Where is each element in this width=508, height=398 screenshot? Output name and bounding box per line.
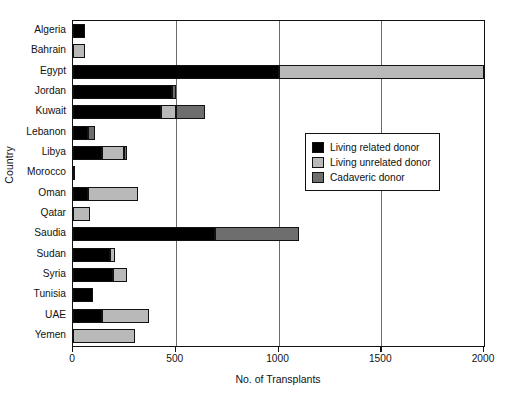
bar-segment <box>73 187 88 201</box>
x-axis-tick-label: 500 <box>166 353 183 364</box>
legend-item: Living unrelated donor <box>312 155 431 169</box>
category-label: Kuwait <box>35 106 66 116</box>
category-label: Yemen <box>35 330 66 340</box>
bar-segment <box>73 166 75 180</box>
x-axis-tick <box>483 346 484 352</box>
category-label: Sudan <box>37 249 66 259</box>
bar-row <box>73 24 484 38</box>
bar-segment <box>102 309 149 323</box>
y-axis-title-text: Country <box>3 146 15 183</box>
bar-row <box>73 105 484 119</box>
category-label: Lebanon <box>26 127 66 137</box>
bar-row <box>73 248 484 262</box>
legend-label: Living unrelated donor <box>330 157 431 168</box>
bar-row <box>73 44 484 58</box>
bar-segment <box>215 227 299 241</box>
bar-row <box>73 65 484 79</box>
legend-swatch-icon <box>312 172 324 183</box>
category-label: Syria <box>43 269 66 279</box>
bar-segment <box>88 126 94 140</box>
category-label: Bahrain <box>31 45 66 55</box>
bar-segment <box>110 248 115 262</box>
category-label: Qatar <box>41 208 66 218</box>
legend-item: Cadaveric donor <box>312 170 431 184</box>
bar-segment <box>279 65 485 79</box>
category-label: Oman <box>38 188 66 198</box>
x-axis-tick <box>175 346 176 352</box>
x-axis-title: No. of Transplants <box>72 373 484 385</box>
legend-label: Cadaveric donor <box>330 172 405 183</box>
x-axis-tick-label: 1000 <box>266 353 289 364</box>
bar-row <box>73 329 484 343</box>
transplant-donor-type-bar-chart: Country AlgeriaBahrainEgyptJordanKuwaitL… <box>0 0 508 398</box>
category-label: Jordan <box>35 86 66 96</box>
x-axis-tick <box>380 346 381 352</box>
x-axis-tick-labels: 0500100015002000 <box>72 353 484 367</box>
category-label: Egypt <box>40 66 66 76</box>
bar-segment <box>73 309 102 323</box>
legend: Living related donorLiving unrelated don… <box>305 133 440 191</box>
x-axis-tick-label: 0 <box>69 353 75 364</box>
bar-row <box>73 268 484 282</box>
category-axis-labels: AlgeriaBahrainEgyptJordanKuwaitLebanonLi… <box>16 20 69 345</box>
bar-segment <box>73 105 161 119</box>
bar-segment <box>73 268 113 282</box>
bar-segment <box>73 126 88 140</box>
bar-segment <box>73 227 215 241</box>
bar-segment <box>88 187 137 201</box>
bar-segment <box>102 146 125 160</box>
category-label: Saudia <box>34 228 66 238</box>
legend-swatch-icon <box>312 157 324 168</box>
bar-segment <box>73 85 172 99</box>
bar-segment <box>176 105 205 119</box>
bar-row <box>73 207 484 221</box>
category-label: Algeria <box>34 25 66 35</box>
bar-row <box>73 85 484 99</box>
bar-segment <box>73 24 85 38</box>
bar-segment <box>73 288 93 302</box>
bar-segment <box>113 268 127 282</box>
category-label: UAE <box>45 310 66 320</box>
category-label: Libya <box>42 147 66 157</box>
legend-swatch-icon <box>312 142 324 153</box>
x-axis-tick-label: 2000 <box>472 353 495 364</box>
bar-segment <box>172 85 176 99</box>
legend-label: Living related donor <box>330 142 419 153</box>
bar-segment <box>73 248 110 262</box>
bar-row <box>73 288 484 302</box>
category-label: Morocco <box>27 167 66 177</box>
bar-segment <box>73 146 102 160</box>
x-axis-tick <box>72 346 73 352</box>
bar-segment <box>73 65 279 79</box>
bar-segment <box>73 207 90 221</box>
bar-segment <box>161 105 175 119</box>
bar-segment <box>73 44 85 58</box>
x-axis-tick-label: 1500 <box>369 353 392 364</box>
bar-row <box>73 309 484 323</box>
category-label: Tunisia <box>34 289 66 299</box>
bar-row <box>73 227 484 241</box>
x-axis-ticks <box>72 346 484 352</box>
bar-segment <box>124 146 127 160</box>
legend-item: Living related donor <box>312 140 431 154</box>
bar-segment <box>73 329 135 343</box>
x-axis-tick <box>278 346 279 352</box>
